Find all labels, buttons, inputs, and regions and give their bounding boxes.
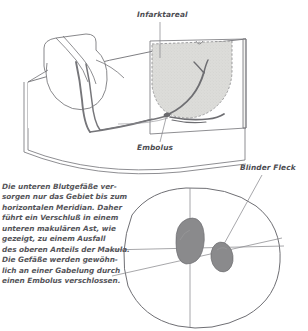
label-blinder-fleck: Blinder Fleck — [240, 163, 296, 172]
caption-line: sorgen nur das Gebiet bis zum — [2, 192, 110, 202]
caption-line: Die unteren Blutgefäße ver- — [2, 182, 110, 192]
label-infarktareal: Infarktareal — [137, 10, 188, 19]
visual-field-outline — [124, 188, 280, 328]
caption-line: lich an einer Gabelung durch — [2, 266, 110, 276]
label-embolus: Embolus — [137, 143, 173, 152]
caption-line: gezeigt, zu einem Ausfall — [2, 234, 110, 244]
caption-line: führt ein Verschluß in einem — [2, 213, 110, 223]
caption-line: Die Gefäße werden gewöhn- — [2, 255, 110, 265]
caption-line: horizontalen Meridian. Daher — [2, 203, 110, 213]
caption-line: einen Embolus verschlossen. — [2, 276, 110, 286]
caption-text: Die unteren Blutgefäße ver-sorgen nur da… — [2, 182, 110, 287]
caption-line: unteren makulären Ast, wie — [2, 224, 110, 234]
figure-retinal-branch-artery-occlusion: Infarktareal Embolus Blinder Fleck Die u… — [0, 0, 308, 331]
caption-line: des oberen Anteils der Makula. — [2, 245, 110, 255]
